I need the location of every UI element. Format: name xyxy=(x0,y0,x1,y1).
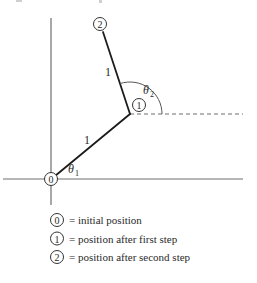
legend: 0 = initial position 1 = position after … xyxy=(51,214,191,264)
theta2-label: θ 2 xyxy=(143,83,154,99)
theta1-subscript: 1 xyxy=(75,169,79,178)
legend-item: 2 = position after second step xyxy=(51,251,191,264)
legend-text: = position after first step xyxy=(69,233,178,245)
legend-item: 0 = initial position xyxy=(51,214,143,227)
point-2-label: 2 xyxy=(98,19,103,30)
legend-item: 1 = position after first step xyxy=(51,232,178,245)
theta1-label: θ 1 xyxy=(68,162,79,178)
legend-marker-label: 2 xyxy=(55,252,60,263)
legend-marker-label: 1 xyxy=(55,234,60,245)
legend-text: = position after second step xyxy=(69,251,191,263)
theta1-symbol: θ xyxy=(68,162,74,176)
point-1-marker: 1 xyxy=(133,99,146,112)
legend-text: = initial position xyxy=(69,214,142,226)
step-1-segment xyxy=(55,114,130,176)
point-2-marker: 2 xyxy=(94,18,107,31)
point-0-marker: 0 xyxy=(45,173,58,186)
random-walk-diagram: 1 1 θ 1 θ 2 0 1 2 0 = initial position 1… xyxy=(0,0,257,283)
theta2-symbol: θ xyxy=(143,83,149,97)
segment-1-length-label: 1 xyxy=(84,133,90,147)
cropped-text-fragment xyxy=(16,0,22,2)
cropped-text-fragment xyxy=(99,0,102,3)
theta2-subscript: 2 xyxy=(150,90,154,99)
segment-2-length-label: 1 xyxy=(105,65,111,79)
legend-marker-label: 0 xyxy=(55,215,60,226)
point-1-label: 1 xyxy=(137,100,142,111)
point-0-label: 0 xyxy=(49,174,54,185)
